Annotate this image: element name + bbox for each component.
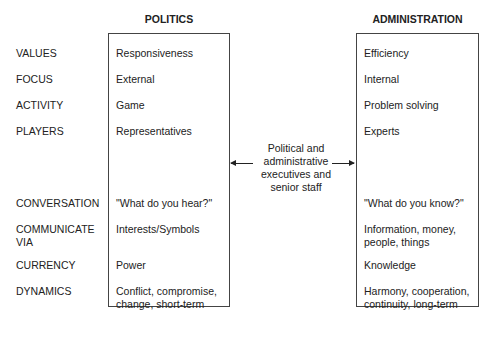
administration-dynamics: Harmony, cooperation, continuity, long-t… xyxy=(364,285,476,311)
politics-conversation: "What do you hear?" xyxy=(116,197,212,210)
row-label-values: VALUES xyxy=(16,47,57,60)
politics-activity: Game xyxy=(116,99,145,112)
administration-currency: Knowledge xyxy=(364,259,416,272)
administration-activity: Problem solving xyxy=(364,99,439,112)
administration-values: Efficiency xyxy=(364,47,409,60)
politics-currency: Power xyxy=(116,259,146,272)
arrow-right-icon xyxy=(332,163,354,164)
row-label-activity: ACTIVITY xyxy=(16,99,63,112)
administration-conversation: "What do you know?" xyxy=(364,197,464,210)
politics-communicate-via: Interests/Symbols xyxy=(116,223,199,236)
politics-dynamics: Conflict, compromise, change, short-term xyxy=(116,285,226,311)
administration-communicate-via: Information, money, people, things xyxy=(364,223,469,249)
administration-focus: Internal xyxy=(364,73,399,86)
administration-header: ADMINISTRATION xyxy=(356,13,479,25)
administration-players: Experts xyxy=(364,125,400,138)
row-label-conversation: CONVERSATION xyxy=(16,197,99,210)
row-label-dynamics: DYNAMICS xyxy=(16,285,71,298)
row-label-currency: CURRENCY xyxy=(16,259,76,272)
middle-label: Political and administrative executives … xyxy=(246,142,346,194)
row-label-communicate-via: COMMUNICATE VIA xyxy=(16,223,88,249)
politics-focus: External xyxy=(116,73,155,86)
politics-players: Representatives xyxy=(116,125,192,138)
politics-header: POLITICS xyxy=(108,13,230,25)
row-label-players: PLAYERS xyxy=(16,125,64,138)
row-label-focus: FOCUS xyxy=(16,73,53,86)
figure-caption xyxy=(16,331,19,337)
politics-values: Responsiveness xyxy=(116,47,193,60)
